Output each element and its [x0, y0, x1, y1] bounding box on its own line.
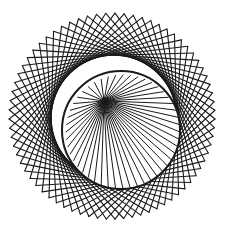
spiral-line-drawing: [0, 0, 229, 239]
line-art-figure: [0, 0, 229, 239]
hub-point: [101, 98, 107, 104]
